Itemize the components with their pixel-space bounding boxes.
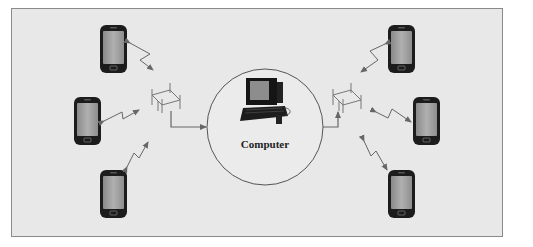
- wireless-link-left-2: [104, 110, 139, 121]
- antenna-icon: [152, 83, 180, 113]
- wired-link-left: [171, 111, 206, 127]
- left-phone-3: [100, 170, 127, 218]
- wireless-link-left-3: [127, 142, 148, 167]
- left-antenna: [152, 83, 180, 113]
- right-phone-1: [388, 25, 415, 73]
- wired-link-right: [323, 112, 338, 127]
- smartphone-icon: [413, 97, 440, 145]
- computer-node: Computer: [207, 69, 323, 185]
- wireless-link-right-2: [376, 109, 411, 122]
- wireless-link-left-1: [130, 43, 153, 70]
- computer-label: Computer: [241, 138, 289, 150]
- antenna-icon: [333, 83, 361, 113]
- left-phone-2: [74, 97, 101, 145]
- wireless-link-right-3: [364, 141, 387, 170]
- right-phone-2: [413, 97, 440, 145]
- left-phone-1: [100, 25, 127, 73]
- network-diagram: Computer: [0, 0, 533, 247]
- smartphone-icon: [100, 25, 127, 73]
- smartphone-icon: [74, 97, 101, 145]
- smartphone-icon: [100, 170, 127, 218]
- smartphone-icon: [388, 25, 415, 73]
- wireless-link-right-1: [361, 44, 385, 72]
- right-phone-3: [388, 170, 415, 218]
- right-antenna: [333, 83, 361, 113]
- smartphone-icon: [388, 170, 415, 218]
